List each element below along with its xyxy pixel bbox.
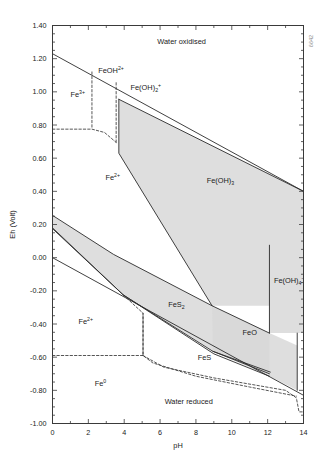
species-base: FeS	[198, 353, 212, 362]
species-superscript: 3+	[79, 89, 85, 95]
annotation-feoh: Fe(OH)3	[207, 176, 235, 186]
x-tick-label: 4	[122, 428, 126, 437]
y-tick-label: -0.40	[30, 320, 46, 329]
species-subscript: 4	[299, 280, 302, 286]
x-axis-title: pH	[173, 441, 182, 450]
species-base: Fe	[105, 173, 114, 182]
svg-text:FeS: FeS	[198, 353, 212, 362]
x-tick-label: 6	[158, 428, 162, 437]
species-base: Fe	[78, 317, 87, 326]
svg-text:FeO: FeO	[243, 328, 258, 337]
x-tick-label: 0	[51, 428, 55, 437]
eh-ph-diagram-svg: 02468101214-1.00-0.80-0.60-0.40-0.200.00…	[0, 0, 326, 466]
figure-side-code: 6642	[308, 35, 314, 47]
svg-text:Water reduced: Water reduced	[165, 397, 213, 406]
species-superscript: 0	[103, 378, 106, 384]
species-base: Fe(OH)	[274, 276, 299, 285]
species-base: Water oxidised	[157, 37, 206, 46]
x-tick-label: 2	[86, 428, 90, 437]
y-tick-label: 0.60	[33, 154, 47, 163]
species-base: Fe(OH)	[207, 176, 232, 185]
pourbaix-diagram-figure: 02468101214-1.00-0.80-0.60-0.40-0.200.00…	[0, 0, 326, 466]
y-tick-label: -0.80	[30, 386, 46, 395]
species-superscript: 2+	[87, 316, 93, 322]
annotation-fes: FeS	[198, 353, 212, 362]
x-tick-label: 12	[264, 428, 272, 437]
species-base: Fe	[70, 90, 79, 99]
x-tick-label: 14	[300, 428, 308, 437]
y-tick-label: -0.20	[30, 286, 46, 295]
y-tick-label: 1.20	[33, 54, 47, 63]
y-tick-label: 0.00	[33, 253, 47, 262]
annotation-wateroxidised: Water oxidised	[157, 37, 206, 46]
species-base: FeOH	[98, 66, 118, 75]
x-tick-label: 8	[194, 428, 198, 437]
species-subscript: 3	[231, 180, 234, 186]
y-tick-label: -0.60	[30, 353, 46, 362]
species-base: Fe	[95, 379, 104, 388]
annotation-feo: FeO	[243, 328, 258, 337]
species-superscript: -	[301, 275, 303, 281]
y-tick-label: 0.80	[33, 121, 47, 130]
species-subscript: 2	[155, 87, 158, 93]
y-tick-label: -1.00	[30, 419, 46, 428]
y-tick-label: 0.40	[33, 187, 47, 196]
species-base: FeO	[243, 328, 258, 337]
svg-text:Water oxidised: Water oxidised	[157, 37, 206, 46]
species-base: Fe(OH)	[130, 83, 155, 92]
species-superscript: 2+	[114, 172, 120, 178]
x-tick-label: 10	[228, 428, 236, 437]
species-base: Water reduced	[165, 397, 213, 406]
species-superscript: 2+	[118, 65, 124, 71]
y-tick-label: 1.00	[33, 87, 47, 96]
y-tick-label: 0.20	[33, 220, 47, 229]
annotation-waterreduced: Water reduced	[165, 397, 213, 406]
y-tick-label: 1.40	[33, 21, 47, 30]
species-base: FeS	[168, 300, 182, 309]
y-axis-title: Eh (Volt)	[8, 210, 17, 238]
species-superscript: +	[158, 82, 161, 88]
svg-text:Fe(OH)3: Fe(OH)3	[207, 176, 235, 186]
species-subscript: 2	[182, 304, 185, 310]
